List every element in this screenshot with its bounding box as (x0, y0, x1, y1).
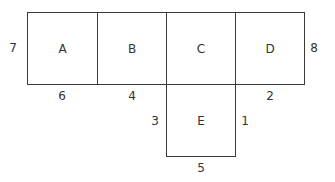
square-d-label: D (265, 42, 274, 56)
edge-label-d-bottom: 2 (263, 90, 277, 102)
square-b: B (97, 12, 167, 85)
square-c: C (166, 12, 236, 85)
edge-label-e-left: 3 (148, 115, 162, 127)
edge-label-a-bottom: 6 (55, 90, 69, 102)
edge-label-a-left: 7 (6, 42, 20, 54)
square-c-label: C (197, 42, 205, 56)
square-a-label: A (58, 42, 66, 56)
edge-label-e-bottom: 5 (194, 162, 208, 174)
square-e-label: E (197, 114, 205, 128)
edge-label-e-right: 1 (238, 115, 252, 127)
square-e: E (166, 84, 236, 157)
edge-label-d-right: 8 (307, 42, 321, 54)
edge-label-b-bottom: 4 (125, 90, 139, 102)
square-b-label: B (128, 42, 136, 56)
square-a: A (27, 12, 98, 85)
square-d: D (235, 12, 305, 85)
